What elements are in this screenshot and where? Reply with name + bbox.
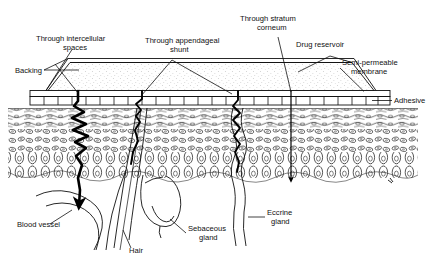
label-eccrine-gland-line2: gland xyxy=(271,217,290,226)
label-drug-reservoir: Drug reservoir xyxy=(296,40,345,49)
label-through-intercellular-spaces-line2: spaces xyxy=(63,43,87,52)
label-sebaceous-gland-line1: Sebaceous xyxy=(188,224,226,233)
label-through-stratum-corneum-line2: corneum xyxy=(257,23,287,32)
label-semi-permeable-membrane-line1: Semi-permeable xyxy=(342,58,398,67)
transdermal-skin-diagram: Through intercellular spaces Through app… xyxy=(0,0,426,263)
label-sebaceous-gland-line2: gland xyxy=(199,233,218,242)
leader-sebaceous xyxy=(170,219,186,233)
label-through-appendageal-shunt-line2: shunt xyxy=(170,45,189,54)
dermis-tick-mark xyxy=(388,178,393,183)
sebaceous-gland xyxy=(141,175,181,238)
label-semi-permeable-membrane-line2: membrane xyxy=(351,67,387,76)
basal-cell-layer xyxy=(8,152,418,178)
stratum-corneum-layer xyxy=(8,109,418,130)
label-blood-vessel: Blood vessel xyxy=(17,220,60,229)
label-through-intercellular-spaces-line1: Through intercellular xyxy=(36,34,106,43)
label-eccrine-gland-line1: Eccrine xyxy=(267,208,292,217)
label-backing: Backing xyxy=(15,66,42,75)
skin-block xyxy=(8,109,418,184)
adhesive-layer xyxy=(30,97,390,106)
label-adhesive: Adhesive xyxy=(394,96,425,105)
drug-reservoir-layer xyxy=(48,63,374,91)
semi-permeable-membrane-layer xyxy=(30,91,390,97)
label-through-appendageal-shunt-line1: Through appendageal xyxy=(145,36,220,45)
label-hair: Hair xyxy=(129,246,143,255)
label-through-stratum-corneum-line1: Through stratum xyxy=(240,14,296,23)
